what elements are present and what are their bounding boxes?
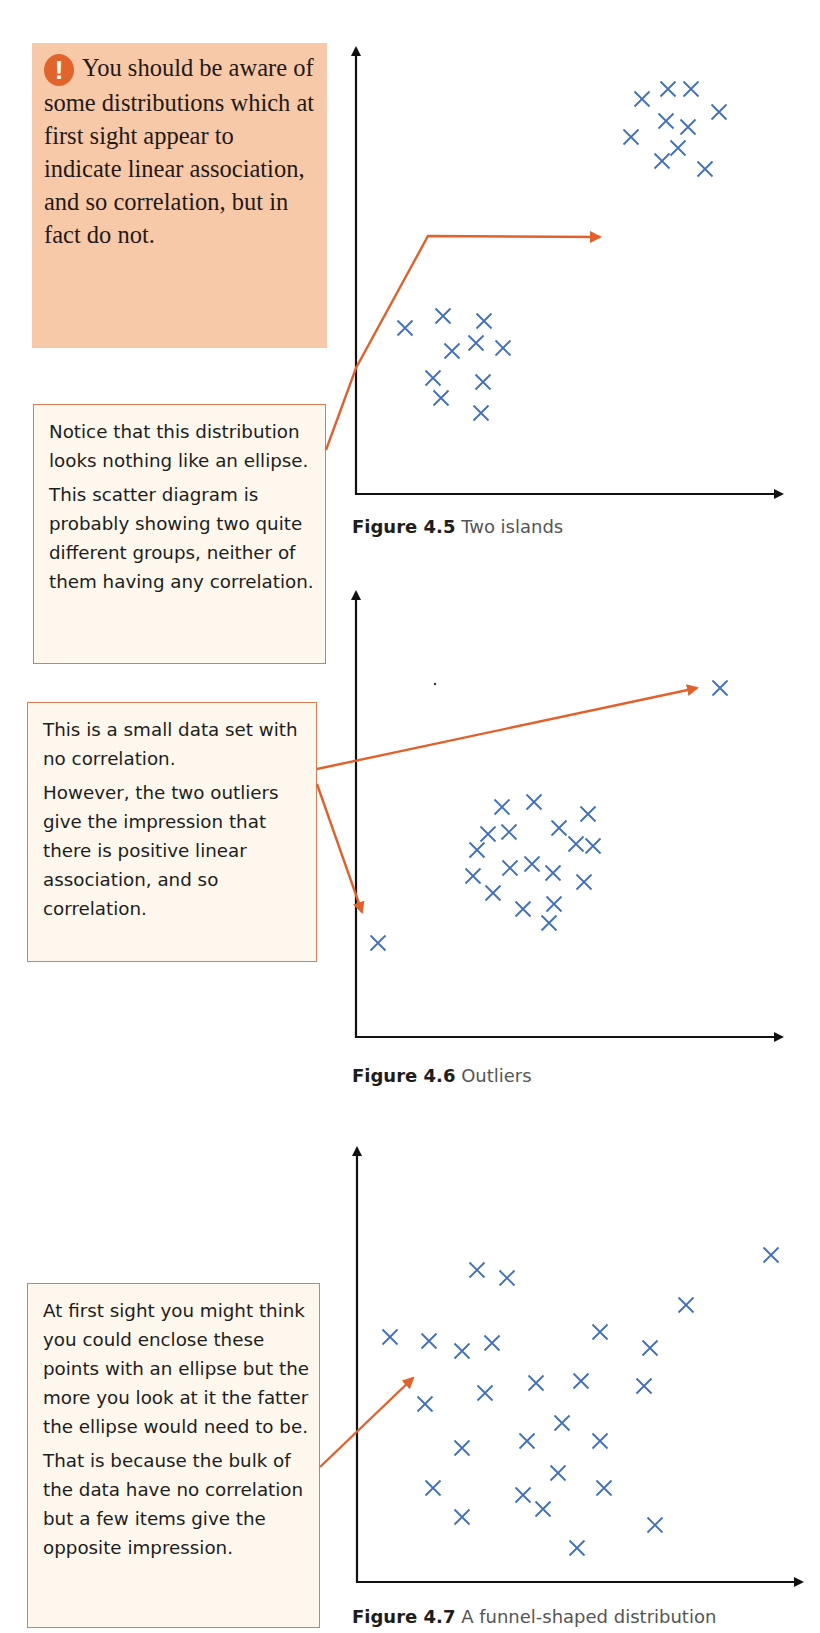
data-point-marker xyxy=(593,1325,608,1340)
data-point-marker xyxy=(474,406,489,421)
data-point-marker xyxy=(466,869,481,884)
data-point-marker xyxy=(525,857,540,872)
data-point-marker xyxy=(671,141,686,156)
data-point-marker xyxy=(486,886,501,901)
data-point-marker xyxy=(455,1344,470,1359)
data-point-marker xyxy=(552,821,567,836)
figure-title: A funnel-shaped distribution xyxy=(461,1606,716,1627)
data-point-marker xyxy=(455,1441,470,1456)
data-point-marker xyxy=(529,1376,544,1391)
data-point-marker xyxy=(570,1541,585,1556)
data-point-marker xyxy=(555,1416,570,1431)
data-point-marker xyxy=(503,861,518,876)
data-point-marker xyxy=(681,120,696,135)
data-point-marker xyxy=(371,936,386,951)
data-point-marker xyxy=(655,154,670,169)
figure-number: Figure 4.7 xyxy=(352,1606,455,1627)
data-point-marker xyxy=(455,1510,470,1525)
data-point-marker xyxy=(577,875,592,890)
figures-canvas xyxy=(0,0,820,1633)
data-point-marker xyxy=(418,1397,433,1412)
data-point-marker xyxy=(659,114,674,129)
data-point-marker xyxy=(637,1379,652,1394)
data-point-marker xyxy=(516,902,531,917)
data-point-marker xyxy=(445,344,460,359)
figure-4-5-caption: Figure 4.5 Two islands xyxy=(352,516,563,537)
figure-4-5-axes xyxy=(355,48,782,495)
data-point-marker xyxy=(586,839,601,854)
data-point-marker xyxy=(643,1341,658,1356)
data-point-marker xyxy=(478,1386,493,1401)
data-point-marker xyxy=(648,1518,663,1533)
data-point-marker xyxy=(481,827,496,842)
data-point-marker xyxy=(551,1466,566,1481)
data-point-marker xyxy=(542,916,557,931)
data-point-marker xyxy=(624,130,639,145)
figure-4-6-axes xyxy=(355,592,782,1038)
data-point-marker xyxy=(569,837,584,852)
arrow-funnel xyxy=(320,1378,413,1467)
data-point-marker xyxy=(520,1434,535,1449)
figure-4-6-caption: Figure 4.6 Outliers xyxy=(352,1065,532,1086)
data-point-marker xyxy=(684,82,699,97)
data-point-marker xyxy=(477,314,492,329)
figure-4-7-caption: Figure 4.7 A funnel-shaped distribution xyxy=(352,1606,716,1627)
figure-number: Figure 4.6 xyxy=(352,1065,455,1086)
data-point-marker xyxy=(661,82,676,97)
data-point-marker xyxy=(496,341,511,356)
figure-number: Figure 4.5 xyxy=(352,516,455,537)
data-point-marker xyxy=(383,1330,398,1345)
data-point-marker xyxy=(679,1298,694,1313)
data-point-marker xyxy=(516,1488,531,1503)
data-point-marker xyxy=(434,391,449,406)
stray-dot xyxy=(434,683,436,685)
figure-title: Outliers xyxy=(461,1065,532,1086)
data-point-marker xyxy=(547,897,562,912)
data-point-marker xyxy=(574,1374,589,1389)
data-point-marker xyxy=(436,309,451,324)
data-point-marker xyxy=(536,1502,551,1517)
data-point-marker xyxy=(426,1481,441,1496)
data-point-marker xyxy=(546,866,561,881)
data-point-marker xyxy=(698,162,713,177)
data-point-marker xyxy=(713,681,728,696)
figure-4-5-points xyxy=(398,82,727,421)
data-point-marker xyxy=(500,1271,515,1286)
data-point-marker xyxy=(495,800,510,815)
arrow-outlier-top xyxy=(317,688,697,769)
data-point-marker xyxy=(593,1434,608,1449)
data-point-marker xyxy=(635,92,650,107)
data-point-marker xyxy=(426,371,441,386)
arrow-two-islands xyxy=(326,236,600,450)
figure-4-7-points xyxy=(383,1248,779,1556)
figure-4-6-points xyxy=(371,681,728,951)
data-point-marker xyxy=(527,795,542,810)
figure-4-7-axes xyxy=(356,1148,802,1583)
data-point-marker xyxy=(581,807,596,822)
data-point-marker xyxy=(764,1248,779,1263)
data-point-marker xyxy=(712,105,727,120)
data-point-marker xyxy=(469,336,484,351)
data-point-marker xyxy=(502,825,517,840)
data-point-marker xyxy=(422,1334,437,1349)
figure-title: Two islands xyxy=(461,516,563,537)
data-point-marker xyxy=(485,1336,500,1351)
data-point-marker xyxy=(597,1481,612,1496)
data-point-marker xyxy=(476,375,491,390)
data-point-marker xyxy=(470,843,485,858)
data-point-marker xyxy=(470,1263,485,1278)
data-point-marker xyxy=(398,321,413,336)
